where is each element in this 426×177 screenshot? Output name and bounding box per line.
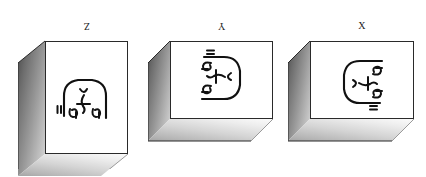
- script-area-x: [311, 42, 413, 118]
- script-area-y: [171, 42, 272, 118]
- script-glyph-cluster-y: [196, 49, 248, 111]
- diagram-canvas: Z: [0, 0, 426, 177]
- box-label-z: Z: [45, 20, 128, 32]
- box-group-x: X: [288, 20, 416, 130]
- box-front-face-z: [45, 41, 128, 154]
- box-3d-x: [288, 34, 416, 130]
- box-3d-y: [148, 34, 273, 130]
- box-label-y: Y: [170, 20, 273, 32]
- script-glyph-cluster-z: [56, 72, 118, 124]
- box-3d-z: [18, 34, 128, 155]
- box-bottom-face-y: [148, 119, 273, 143]
- script-area-z: [46, 42, 127, 153]
- box-bottom-face-x: [288, 119, 414, 143]
- script-glyph-cluster-x: [336, 49, 388, 111]
- box-front-face-y: [170, 41, 273, 119]
- box-label-x: X: [310, 20, 414, 32]
- box-front-face-x: [310, 41, 414, 119]
- box-group-z: Z: [18, 20, 128, 155]
- box-group-y: Y: [148, 20, 273, 130]
- box-left-face-z: [18, 41, 45, 176]
